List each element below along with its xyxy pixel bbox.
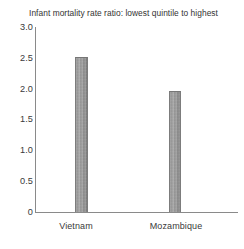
bar-chart-figure: Infant mortality rate ratio: lowest quin… [0,0,244,249]
x-axis-line [36,212,238,213]
y-tick-label-2-5: 2.5 [3,53,33,63]
y-tick-label-2-0: 2.0 [3,84,33,94]
bar-mozambique [169,91,181,212]
y-tick-label-0: 0 [3,207,33,217]
y-tick-label-0-5: 0.5 [3,176,33,186]
y-tick-label-3-0: 3.0 [3,22,33,32]
y-tick-label-1-5: 1.5 [3,114,33,124]
x-tick-label-mozambique: Mozambique [137,221,215,232]
chart-title: Infant mortality rate ratio: lowest quin… [29,8,241,19]
y-axis-tick-labels: 3.0 2.5 2.0 1.5 1.0 0.5 0 [0,0,33,249]
x-tick-label-vietnam: Vietnam [46,221,106,232]
y-tick-label-1-0: 1.0 [3,145,33,155]
bar-vietnam [75,57,88,212]
plot-area [36,27,238,212]
